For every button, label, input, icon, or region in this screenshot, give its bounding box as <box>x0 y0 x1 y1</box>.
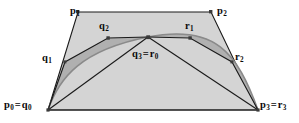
vertex-dot-q3-r0 <box>146 35 150 39</box>
vertex-dot-r2 <box>230 60 233 63</box>
label-q0-sub: 0 <box>28 104 32 112</box>
label-p0q0-equals: = <box>14 99 22 110</box>
label-p0-equals-q0: p0=q0 <box>4 100 31 111</box>
label-q2-sub: 2 <box>105 25 109 33</box>
label-p2-sub: 2 <box>223 10 227 18</box>
label-p1: p1 <box>70 6 80 17</box>
vertex-dot-q1 <box>63 60 66 63</box>
label-q1-sub: 1 <box>48 57 52 65</box>
label-p1-sub: 1 <box>76 10 80 18</box>
label-p2: p2 <box>217 6 227 17</box>
vertex-dot-q2 <box>106 36 109 39</box>
label-r3-sub: 3 <box>283 104 287 112</box>
vertex-dot-p2 <box>209 10 212 13</box>
vertex-dot-r1 <box>188 36 191 39</box>
label-r2-sub: 2 <box>240 56 244 64</box>
label-p3-sub: 3 <box>266 104 270 112</box>
label-q3-equals-r0: q3=r0 <box>132 49 158 60</box>
label-p0-sub: 0 <box>10 104 14 112</box>
label-r1: r1 <box>185 21 193 32</box>
label-q0-text: q <box>22 99 28 110</box>
label-r0-text: r <box>150 48 155 59</box>
label-r1-sub: 1 <box>190 25 194 33</box>
label-r0-sub: 0 <box>155 53 159 61</box>
vertex-dot-p0-q0 <box>46 108 49 111</box>
bezier-subdivision-figure: p1 p2 q2 r1 q1 r2 q3=r0 p0=q0 p3=r3 <box>0 0 299 123</box>
label-q1: q1 <box>42 53 52 64</box>
label-p3r3-equals: = <box>270 99 278 110</box>
label-q3-sub: 3 <box>138 53 142 61</box>
label-q3r0-equals: = <box>142 48 150 59</box>
label-r3-text: r <box>278 99 283 110</box>
label-r2: r2 <box>235 52 243 63</box>
label-q2: q2 <box>99 21 109 32</box>
label-p3-equals-r3: p3=r3 <box>260 100 286 111</box>
